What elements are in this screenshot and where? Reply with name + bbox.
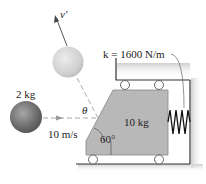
- spring: [168, 110, 190, 134]
- rebound-arrowhead: [54, 15, 59, 23]
- wheel-bottom-left: [89, 155, 98, 164]
- rebound-velocity-label: v′: [60, 8, 68, 20]
- collision-diagram: v′ 2 kg 10 m/s θ 10 kg 60° k = 1600 N/m: [0, 0, 206, 184]
- speed-label: 10 m/s: [48, 128, 78, 140]
- spring-constant-label: k = 1600 N/m: [103, 48, 165, 60]
- ball-mass-label: 2 kg: [16, 88, 36, 100]
- ball-2kg: [10, 101, 42, 133]
- wheel-bottom-right: [155, 155, 164, 164]
- wheel-top-right: [155, 81, 164, 90]
- block-mass-label: 10 kg: [124, 116, 149, 128]
- wheel-top-left: [121, 81, 130, 90]
- incoming-arrowhead: [56, 116, 63, 121]
- rebound-velocity-arrow: [57, 20, 67, 46]
- spring-label-leader: [171, 54, 184, 108]
- angle-theta-label: θ: [82, 104, 88, 116]
- incline-angle-label: 60°: [100, 133, 115, 145]
- ball-after-collision: [53, 47, 84, 78]
